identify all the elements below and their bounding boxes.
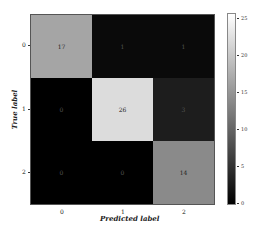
cell-1-0: 0 <box>31 78 92 141</box>
cell-value: 0 <box>121 169 125 176</box>
confusion-matrix: 17 1 1 0 26 3 0 0 14 <box>30 14 215 205</box>
cell-0-2: 1 <box>153 15 214 78</box>
cell-1-2: 3 <box>153 78 214 141</box>
x-tick-2: 2 <box>182 208 186 215</box>
cell-2-0: 0 <box>31 141 92 204</box>
cell-value: 1 <box>121 43 125 50</box>
cell-1-1: 26 <box>92 78 153 141</box>
colorbar-tick-15: 15 <box>241 89 247 95</box>
y-axis-label: True label <box>10 90 19 130</box>
y-tick-0: 0 <box>22 41 26 48</box>
y-tick-2: 2 <box>22 168 26 175</box>
colorbar-tick-0: 0 <box>241 200 244 206</box>
y-tick-1: 1 <box>22 105 26 112</box>
cell-value: 1 <box>182 43 186 50</box>
colorbar-tick-10: 10 <box>241 126 247 132</box>
colorbar-tick-20: 20 <box>241 52 247 58</box>
cell-0-1: 1 <box>92 15 153 78</box>
colorbar <box>227 13 236 205</box>
cell-2-1: 0 <box>92 141 153 204</box>
cell-value: 17 <box>58 43 66 50</box>
cell-value: 26 <box>119 106 127 113</box>
cell-0-0: 17 <box>31 15 92 78</box>
cell-value: 0 <box>60 106 64 113</box>
cell-2-2: 14 <box>153 141 214 204</box>
x-axis-label: Predicted label <box>100 214 159 223</box>
cell-value: 14 <box>180 169 188 176</box>
cell-value: 3 <box>182 106 186 113</box>
x-tick-0: 0 <box>60 208 64 215</box>
colorbar-tick-25: 25 <box>241 15 247 21</box>
cell-value: 0 <box>60 169 64 176</box>
colorbar-tick-5: 5 <box>241 163 244 169</box>
